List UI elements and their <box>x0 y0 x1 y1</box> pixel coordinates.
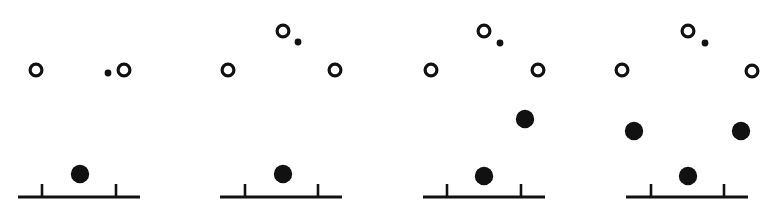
small-dot-marker <box>702 40 709 47</box>
filled-circle-marker <box>516 110 534 128</box>
filled-circle-marker <box>625 122 643 140</box>
filled-circle-marker <box>71 165 89 183</box>
filled-circle-marker <box>475 167 493 185</box>
figure-canvas <box>0 0 774 221</box>
filled-circle-marker <box>679 167 697 185</box>
filled-circle-marker <box>732 122 750 140</box>
small-dot-marker <box>105 70 112 77</box>
filled-circle-marker <box>274 165 292 183</box>
figure-svg <box>0 0 774 221</box>
small-dot-marker <box>295 39 302 46</box>
small-dot-marker <box>497 40 504 47</box>
